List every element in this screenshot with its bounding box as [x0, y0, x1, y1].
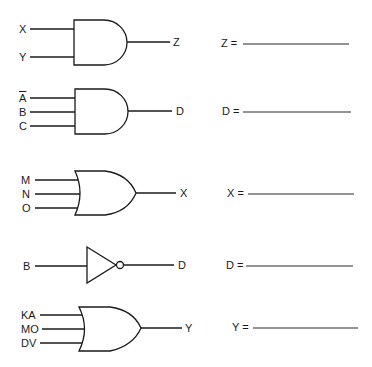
inversion-bubble	[117, 262, 124, 269]
or-gate-2	[40, 307, 182, 351]
answer-label-d1: D =	[222, 105, 239, 117]
input-label-x: X	[19, 23, 26, 35]
and-gate-2	[30, 89, 172, 134]
answer-label-y: Y =	[232, 321, 249, 333]
output-label-y: Y	[185, 322, 192, 334]
output-label-x: X	[180, 187, 187, 199]
and-gate-symbol	[75, 89, 128, 134]
output-label-d-not: D	[178, 259, 186, 271]
input-label-b-not: B	[23, 260, 30, 272]
not-gate	[35, 247, 174, 283]
answer-label-d2: D =	[226, 259, 243, 271]
or-gate-symbol	[79, 307, 141, 351]
input-label-mo: MO	[21, 323, 39, 335]
answer-label-z: Z =	[221, 37, 237, 49]
and-gate-1	[30, 20, 170, 65]
or-gate-symbol	[75, 171, 136, 215]
or-gate-1	[35, 171, 176, 215]
input-label-o: O	[22, 202, 31, 214]
input-label-ka: KA	[21, 309, 36, 321]
input-label-dv: DV	[21, 337, 36, 349]
and-gate-symbol	[74, 20, 127, 65]
answer-label-x: X =	[227, 187, 244, 199]
input-label-a-bar: A	[19, 92, 26, 104]
not-gate-triangle	[87, 247, 116, 283]
input-label-m: M	[21, 174, 30, 186]
input-label-b: B	[19, 106, 26, 118]
input-label-c: C	[19, 120, 27, 132]
output-label-d: D	[176, 105, 184, 117]
output-label-z: Z	[173, 36, 180, 48]
input-label-n: N	[22, 188, 30, 200]
logic-gates-diagram	[0, 0, 372, 367]
input-label-y: Y	[19, 51, 26, 63]
